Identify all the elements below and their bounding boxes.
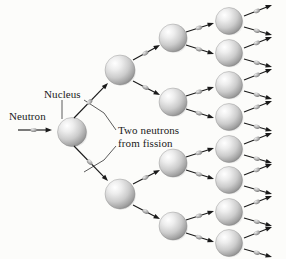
arrowhead-icon bbox=[207, 23, 214, 28]
neutron-particle bbox=[253, 199, 260, 205]
arrowhead-icon bbox=[265, 5, 272, 10]
neutron-particle bbox=[195, 171, 202, 177]
nucleus-sphere bbox=[159, 149, 187, 177]
neutron-arrow bbox=[186, 87, 214, 96]
arrowhead-icon bbox=[265, 222, 272, 227]
neutron-arrow bbox=[133, 205, 160, 219]
arrowhead-icon bbox=[265, 164, 272, 169]
arrowhead-icon bbox=[265, 133, 272, 138]
nucleus-sphere bbox=[58, 118, 87, 147]
neutron-arrow bbox=[186, 211, 214, 220]
neutron-particle bbox=[253, 219, 260, 225]
neutron-arrow bbox=[244, 5, 272, 16]
neutron-arrow bbox=[244, 27, 272, 36]
nucleus-sphere bbox=[216, 72, 243, 99]
nucleus-label: Nucleus bbox=[44, 88, 81, 100]
neutron-particle bbox=[253, 104, 260, 110]
arrowhead-icon bbox=[207, 211, 214, 216]
arrowhead-icon bbox=[46, 128, 52, 133]
arrowhead-icon bbox=[153, 45, 160, 50]
neutron-particle bbox=[253, 60, 260, 66]
nucleus-sphere bbox=[216, 167, 243, 194]
neutron-arrow bbox=[244, 186, 272, 195]
neutron-arrow bbox=[244, 59, 272, 68]
neutron-particle bbox=[253, 72, 260, 78]
neutron-particle bbox=[30, 128, 36, 132]
neutron-arrow bbox=[133, 45, 160, 60]
arrowhead-icon bbox=[265, 101, 272, 106]
neutron-arrow bbox=[244, 133, 272, 144]
arrowhead-icon bbox=[265, 69, 272, 74]
neutron-particle bbox=[253, 187, 260, 193]
neutron-particle bbox=[142, 208, 150, 215]
nucleus-sphere bbox=[216, 199, 243, 226]
arrowhead-icon bbox=[153, 214, 160, 219]
nucleus-sphere bbox=[216, 40, 243, 67]
neutron-arrow bbox=[186, 148, 214, 157]
arrowhead-icon bbox=[265, 159, 272, 164]
neutron-arrow bbox=[244, 123, 272, 132]
neutron-arrow bbox=[244, 37, 272, 48]
neutron-particle bbox=[195, 25, 202, 31]
arrowhead-icon bbox=[207, 238, 214, 243]
neutron-particle bbox=[195, 89, 202, 95]
neutron-arrow bbox=[244, 249, 272, 258]
nucleus-sphere bbox=[216, 136, 243, 163]
neutron-particle bbox=[253, 230, 260, 236]
neutron-arrow bbox=[186, 23, 214, 32]
arrowhead-icon bbox=[207, 87, 214, 92]
nucleus-sphere bbox=[216, 8, 243, 35]
neutron-arrow bbox=[244, 155, 272, 164]
neutron-particle bbox=[142, 84, 150, 91]
neutron-arrow bbox=[244, 227, 272, 238]
nucleus-sphere bbox=[105, 55, 135, 85]
nucleus-sphere bbox=[159, 24, 187, 52]
neutron-arrow bbox=[244, 164, 272, 175]
neutron-particle bbox=[195, 46, 202, 52]
arrowhead-icon bbox=[207, 114, 214, 119]
nucleus-sphere bbox=[159, 88, 187, 116]
neutron-arrow bbox=[133, 81, 160, 95]
neutron-arrow bbox=[74, 146, 108, 181]
arrowhead-icon bbox=[265, 227, 272, 232]
neutron-particle bbox=[253, 28, 260, 34]
neutron-arrow bbox=[18, 128, 52, 133]
neutron-particle bbox=[253, 92, 260, 98]
neutron-particle bbox=[253, 167, 260, 173]
arrowhead-icon bbox=[265, 190, 272, 195]
arrowhead-icon bbox=[153, 90, 160, 95]
neutron-particle bbox=[142, 174, 150, 181]
arrowhead-icon bbox=[265, 95, 272, 100]
neutron-particle bbox=[195, 234, 202, 240]
neutron-arrow bbox=[133, 170, 160, 184]
neutron-particle bbox=[253, 156, 260, 162]
nucleus-sphere bbox=[105, 179, 135, 209]
neutron-arrow bbox=[244, 91, 272, 100]
arrowhead-icon bbox=[207, 175, 214, 180]
arrowhead-icon bbox=[265, 31, 272, 36]
neutron-particle bbox=[195, 150, 202, 156]
fission-chain-reaction-figure: Neutron Nucleus Two neutrons from fissio… bbox=[0, 0, 286, 259]
nucleus-sphere bbox=[216, 230, 243, 257]
neutron-particle bbox=[253, 136, 260, 142]
arrowhead-icon bbox=[265, 196, 272, 201]
arrowhead-icon bbox=[153, 170, 160, 175]
leader-two-neutrons-lower bbox=[84, 146, 116, 172]
arrowhead-icon bbox=[207, 50, 214, 55]
arrowhead-icon bbox=[265, 63, 272, 68]
neutron-particle bbox=[142, 50, 150, 57]
arrowhead-icon bbox=[207, 148, 214, 153]
arrowhead-icon bbox=[265, 253, 272, 258]
neutron-arrow bbox=[244, 69, 272, 80]
neutron-arrow bbox=[186, 45, 214, 54]
neutron-arrow bbox=[244, 218, 272, 227]
neutron-particle bbox=[195, 110, 202, 116]
neutron-particle bbox=[253, 40, 260, 46]
neutron-arrow bbox=[244, 196, 272, 207]
neutron-particle bbox=[253, 124, 260, 130]
neutron-arrow bbox=[186, 233, 214, 242]
neutron-arrow bbox=[186, 170, 214, 179]
nucleus-sphere bbox=[216, 104, 243, 131]
neutron-particle bbox=[253, 8, 260, 14]
neutron-arrow bbox=[186, 109, 214, 118]
